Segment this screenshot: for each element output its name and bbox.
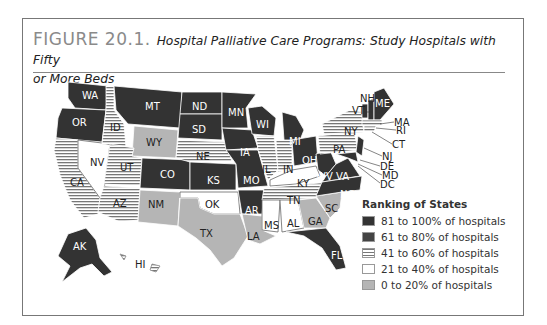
legend-label: 61 to 80% of hospitals [381,231,499,243]
label-WV: WV [316,171,333,182]
label-DC: DC [380,179,395,190]
legend-label: 0 to 20% of hospitals [381,279,492,291]
swatch-41-60 [362,248,375,258]
label-MO: MO [243,175,260,186]
label-NC: NC [340,189,354,200]
label-MN: MN [228,107,244,118]
label-CT: CT [392,139,406,150]
label-OR: OR [72,117,87,128]
label-GA: GA [308,216,323,227]
label-SD: SD [192,124,206,135]
legend-item: 61 to 80% of hospitals [362,229,505,245]
state-MA [362,120,382,126]
legend-title: Ranking of States [362,198,505,210]
label-VA: VA [336,171,349,182]
label-RI: RI [396,125,406,136]
label-VT: VT [352,105,366,116]
label-WY: WY [146,137,163,148]
legend-label: 81 to 100% of hospitals [381,215,505,227]
label-AR: AR [245,205,259,216]
label-OK: OK [205,199,220,210]
label-PA: PA [333,144,345,155]
state-CT [364,126,376,132]
label-HI: HI [135,259,145,270]
label-CA: CA [70,177,84,188]
legend-item: 0 to 20% of hospitals [362,277,505,293]
label-CO: CO [160,169,175,180]
label-AZ: AZ [113,198,127,209]
label-TX: TX [199,228,213,239]
legend-label: 21 to 40% of hospitals [381,263,499,275]
label-NE: NE [196,151,210,162]
legend: Ranking of States 81 to 100% of hospital… [362,198,505,293]
label-LA: LA [247,231,260,242]
legend-item: 81 to 100% of hospitals [362,213,505,229]
label-KY: KY [297,178,310,189]
swatch-61-80 [362,232,375,242]
label-IA: IA [240,147,250,158]
label-MI: MI [289,136,301,147]
label-ID: ID [110,122,121,133]
state-NJ [356,136,364,156]
state-AK [58,228,112,282]
label-UT: UT [120,162,134,173]
label-WI: WI [256,119,269,130]
legend-label: 41 to 60% of hospitals [381,247,499,259]
label-KS: KS [207,175,220,186]
label-WA: WA [82,90,98,101]
label-IN: IN [283,164,293,175]
label-OH: OH [302,155,317,166]
swatch-81-100 [362,216,375,226]
legend-item: 21 to 40% of hospitals [362,261,505,277]
label-SC: SC [325,203,338,214]
label-IL: IL [262,164,271,175]
swatch-0-20 [362,280,375,290]
label-AL: AL [287,218,300,229]
legend-item: 41 to 60% of hospitals [362,245,505,261]
label-ND: ND [192,101,207,112]
label-MT: MT [145,101,161,112]
label-AK: AK [73,241,87,252]
label-FL: FL [331,250,343,261]
label-NM: NM [148,199,164,210]
label-NY: NY [344,126,358,137]
label-TN: TN [286,195,301,206]
label-MS: MS [264,220,279,231]
state-FL [286,228,346,270]
label-NH: NH [360,93,375,104]
swatch-21-40 [362,264,375,274]
label-NV: NV [90,157,104,168]
label-ME: ME [375,98,390,109]
